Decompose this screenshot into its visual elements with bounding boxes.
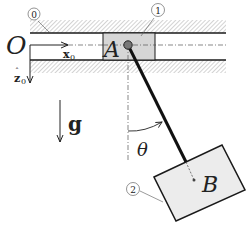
x0-hat: ˆ <box>64 43 68 52</box>
angle-theta-arc <box>128 122 162 131</box>
z0-hat: ˆ <box>15 67 19 76</box>
body-2-number: 2 <box>130 185 136 195</box>
origin-label: O <box>6 31 27 60</box>
z0-subscript: 0 <box>21 77 26 86</box>
gravity-label: g <box>68 112 82 136</box>
leader-body-2 <box>140 191 163 202</box>
point-B-label: B <box>201 172 218 197</box>
z0-label: z 0 ˆ <box>14 67 26 86</box>
body-1-number: 1 <box>155 6 161 16</box>
x0-subscript: 0 <box>70 53 75 62</box>
point-B-dot <box>193 179 196 182</box>
top-rail-hatch <box>30 20 226 33</box>
body-2-tag: 2 <box>127 183 140 196</box>
body-1-tag: 1 <box>152 4 165 17</box>
point-A-label: A <box>102 37 120 62</box>
mechanism-diagram: 0 1 2 O x 0 ˆ z 0 ˆ g A B θ <box>0 0 247 225</box>
x0-label: x 0 ˆ <box>63 43 75 62</box>
angle-theta-label: θ <box>137 139 148 160</box>
body-0-tag: 0 <box>28 8 40 20</box>
body-0-number: 0 <box>31 10 37 20</box>
pendulum-box-body-2 <box>154 145 245 221</box>
pivot-A-icon <box>124 41 132 49</box>
